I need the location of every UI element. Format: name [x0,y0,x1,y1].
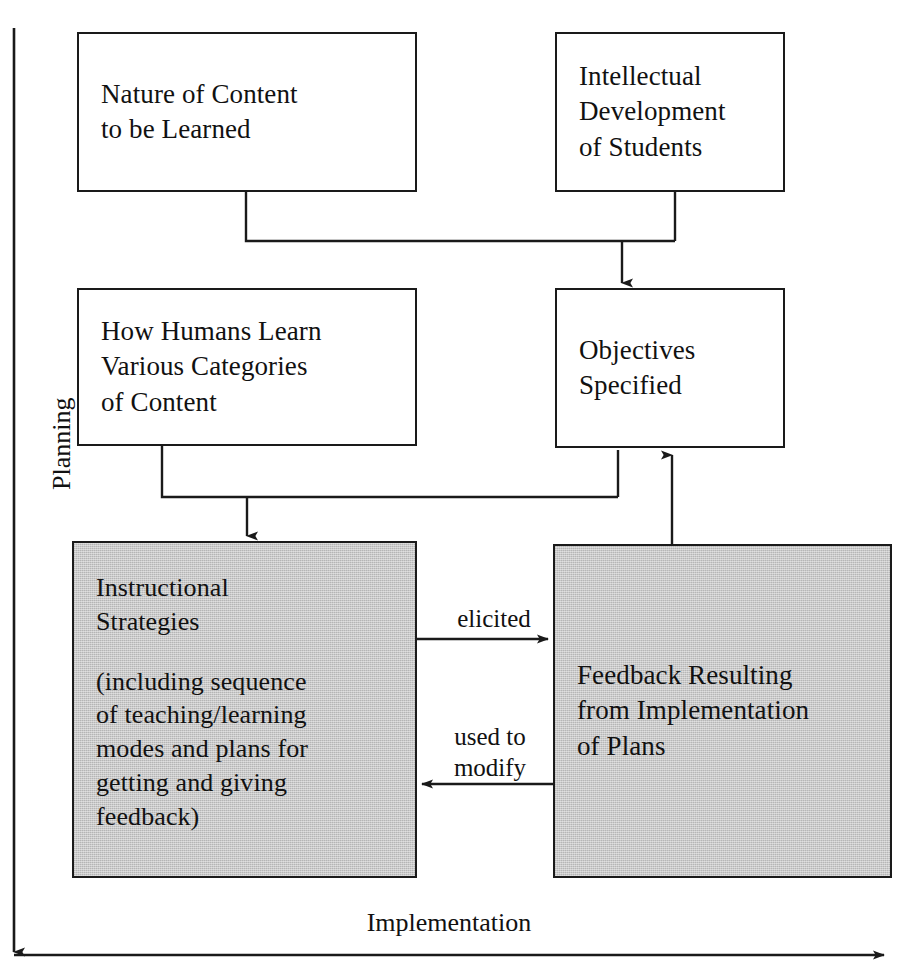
edge-label-used-to-modify-line-1: used to [420,722,560,753]
connector-nature-to-merge [246,192,675,241]
axis-label-planning-text: Planning [47,398,76,490]
edge-label-elicited: elicited [424,604,564,635]
node-how-humans-learn-line-1: How Humans Learn [101,314,401,349]
axis-label-implementation: Implementation [0,908,898,938]
connector-howhumans-to-merge [162,446,618,497]
node-instructional-strategies-line-2: Strategies [96,605,401,639]
node-intellectual-development-body: Intellectual Development of Students [557,59,783,164]
node-feedback-resulting-line-1: Feedback Resulting [577,658,876,693]
node-objectives-specified-body: Objectives Specified [557,333,783,403]
node-instructional-strategies-detail-1: (including sequence [96,665,401,699]
node-intellectual-development-line-1: Intellectual [579,59,769,94]
diagram-canvas: Nature of Content to be Learned Intellec… [0,0,898,973]
node-how-humans-learn-body: How Humans Learn Various Categories of C… [79,314,415,419]
node-feedback-resulting-line-3: of Plans [577,729,876,764]
node-objectives-specified[interactable]: Objectives Specified [555,288,785,448]
node-objectives-specified-line-1: Objectives [579,333,769,368]
node-nature-of-content-line-1: Nature of Content [101,77,401,112]
node-feedback-resulting-body: Feedback Resulting from Implementation o… [555,658,890,763]
node-nature-of-content[interactable]: Nature of Content to be Learned [77,32,417,192]
node-feedback-resulting[interactable]: Feedback Resulting from Implementation o… [553,544,892,878]
node-instructional-strategies[interactable]: Instructional Strategies (including sequ… [72,541,417,878]
node-intellectual-development-line-2: Development [579,94,769,129]
node-how-humans-learn-line-2: Various Categories [101,349,401,384]
node-how-humans-learn[interactable]: How Humans Learn Various Categories of C… [77,288,417,446]
axis-label-implementation-text: Implementation [367,908,532,937]
node-objectives-specified-line-2: Specified [579,368,769,403]
node-intellectual-development-line-3: of Students [579,130,769,165]
edge-label-used-to-modify: used to modify [420,722,560,783]
node-intellectual-development[interactable]: Intellectual Development of Students [555,32,785,192]
node-nature-of-content-body: Nature of Content to be Learned [79,77,415,147]
node-nature-of-content-line-2: to be Learned [101,112,401,147]
axis-label-planning: Planning [47,398,77,490]
edge-label-used-to-modify-line-2: modify [420,753,560,784]
node-instructional-strategies-detail-3: modes and plans for [96,732,401,766]
node-instructional-strategies-detail-5: feedback) [96,800,401,834]
edge-label-elicited-text: elicited [457,605,531,632]
node-how-humans-learn-line-3: of Content [101,385,401,420]
node-feedback-resulting-line-2: from Implementation [577,693,876,728]
node-instructional-strategies-line-1: Instructional [96,571,401,605]
node-instructional-strategies-body: Instructional Strategies (including sequ… [74,543,415,834]
node-instructional-strategies-detail-4: getting and giving [96,766,401,800]
node-instructional-strategies-detail-2: of teaching/learning [96,698,401,732]
